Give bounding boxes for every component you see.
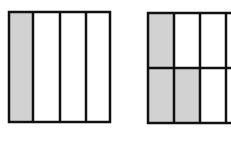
fraction-figure-left — [0, 0, 231, 148]
shaded-cell — [148, 13, 174, 68]
shaded-cell — [174, 68, 200, 123]
fraction-grid-right — [148, 13, 231, 123]
shaded-cell — [9, 12, 33, 122]
shaded-cell — [148, 68, 174, 123]
fraction-bar-left — [9, 12, 110, 122]
fraction-diagram-canvas — [0, 0, 231, 148]
